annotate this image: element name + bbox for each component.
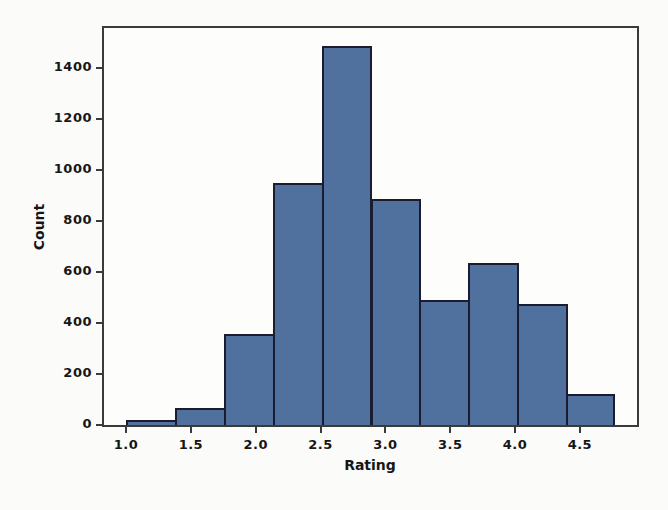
y-tick-label: 1400 [38, 59, 92, 74]
x-tick-label: 2.5 [291, 437, 351, 452]
x-tick-label: 1.5 [161, 437, 221, 452]
x-tick-label: 1.0 [96, 437, 156, 452]
y-tick-mark [96, 220, 102, 222]
x-tick-label: 4.0 [485, 437, 545, 452]
x-tick-mark [514, 427, 516, 433]
x-tick-label: 3.5 [420, 437, 480, 452]
x-tick-label: 4.5 [550, 437, 610, 452]
y-tick-label: 0 [38, 416, 92, 431]
y-tick-label: 1000 [38, 161, 92, 176]
histogram-bar [322, 46, 373, 425]
histogram-bar [273, 183, 324, 426]
x-tick-mark [255, 427, 257, 433]
histogram-bar [126, 420, 177, 425]
x-tick-label: 2.0 [226, 437, 286, 452]
histogram-bar [224, 334, 275, 425]
y-tick-mark [96, 424, 102, 426]
histogram-bar [468, 263, 519, 425]
y-tick-mark [96, 322, 102, 324]
histogram-bar [419, 300, 470, 425]
x-tick-mark [190, 427, 192, 433]
y-tick-label: 1200 [38, 110, 92, 125]
x-tick-mark [320, 427, 322, 433]
y-axis-label: Count [31, 196, 47, 258]
y-tick-mark [96, 118, 102, 120]
y-tick-label: 400 [38, 314, 92, 329]
y-tick-mark [96, 67, 102, 69]
y-tick-mark [96, 271, 102, 273]
y-tick-mark [96, 373, 102, 375]
histogram-figure: Rating Count 1.01.52.02.53.03.54.04.5020… [0, 0, 668, 510]
y-tick-label: 600 [38, 263, 92, 278]
x-tick-mark [579, 427, 581, 433]
y-tick-label: 800 [38, 212, 92, 227]
histogram-bar [371, 199, 422, 425]
y-tick-mark [96, 169, 102, 171]
x-tick-mark [384, 427, 386, 433]
histogram-bar [175, 408, 226, 425]
x-axis-label: Rating [270, 457, 470, 473]
y-tick-label: 200 [38, 365, 92, 380]
x-tick-label: 3.0 [355, 437, 415, 452]
x-tick-mark [449, 427, 451, 433]
histogram-bar [566, 394, 615, 425]
plot-area [102, 26, 639, 427]
x-tick-mark [125, 427, 127, 433]
histogram-bar [517, 304, 568, 425]
